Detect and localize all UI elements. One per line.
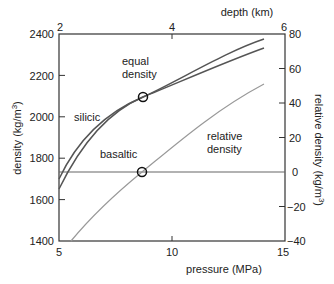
y2tick-neg20: −20	[287, 201, 306, 213]
y2-axis-title: relative density (kg/m3)	[313, 94, 326, 206]
x2tick-2: 2	[57, 21, 63, 33]
annotation-relative-density-line1: relative	[207, 130, 242, 142]
y2tick-40: 40	[289, 97, 301, 109]
xtick-15: 15	[277, 246, 289, 258]
relative-density-curve	[71, 84, 264, 241]
x-axis-title: pressure (MPa)	[186, 263, 262, 275]
ytick-1600: 1600	[30, 194, 54, 206]
y2tick-80: 80	[289, 28, 301, 40]
x2-axis-title: depth (km)	[221, 6, 274, 18]
y2tick-20: 20	[289, 132, 301, 144]
x2tick-6: 6	[281, 21, 287, 33]
y-axis-title: density (kg/m3)	[10, 101, 23, 175]
annotation-equal-density-line1: equal	[122, 55, 149, 67]
plot-frame	[59, 34, 285, 241]
ytick-2000: 2000	[30, 111, 54, 123]
x2tick-4: 4	[169, 21, 175, 33]
y2tick-0: 0	[292, 166, 298, 178]
ytick-1800: 1800	[30, 152, 54, 164]
xtick-5: 5	[56, 246, 62, 258]
y2tick-60: 60	[289, 63, 301, 75]
right-axis-ticks	[279, 69, 285, 207]
left-axis-ticks	[59, 75, 65, 199]
y2tick-neg40: −40	[287, 235, 306, 247]
ytick-2200: 2200	[30, 70, 54, 82]
ytick-2400: 2400	[30, 28, 54, 40]
annotation-basaltic: basaltic	[100, 148, 138, 160]
xtick-10: 10	[166, 246, 178, 258]
annotation-relative-density-line2: density	[207, 143, 242, 155]
ytick-1400: 1400	[30, 235, 54, 247]
chart-canvas: 2400 2200 2000 1800 1600 1400 80 60 40 2…	[0, 0, 334, 284]
annotation-silicic: silicic	[74, 111, 101, 123]
annotation-equal-density-line2: density	[122, 68, 157, 80]
